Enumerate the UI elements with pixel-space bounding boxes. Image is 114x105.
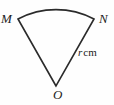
radius-symbol: r (78, 46, 82, 58)
radius-label: rcm (78, 46, 97, 58)
vertex-label-o: O (53, 88, 62, 101)
vertex-label-n: N (99, 12, 108, 25)
radius-unit: cm (83, 46, 96, 58)
circular-sector-figure: M N O rcm (0, 0, 114, 105)
vertex-label-m: M (1, 12, 12, 25)
